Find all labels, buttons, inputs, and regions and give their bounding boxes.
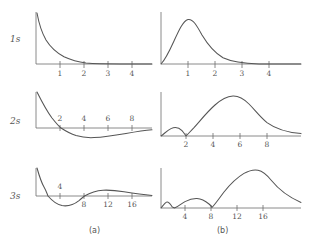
axes	[161, 168, 301, 208]
tick-label: 6	[238, 140, 243, 149]
chart-3s-wavefunction: 4 8 12 16	[30, 166, 154, 226]
tick-label: 4	[267, 69, 272, 78]
tick-label: 3	[106, 69, 111, 78]
chart-1s-wavefunction: 1 2 3 4	[30, 8, 154, 78]
tick-label: 1	[58, 69, 63, 78]
row-label-1s: 1s	[10, 34, 20, 44]
tick-label: 3	[240, 69, 245, 78]
caption-b: (b)	[217, 226, 228, 235]
tick-label: 6	[106, 114, 111, 123]
row-label-3s: 3s	[10, 191, 20, 201]
curve-2s-psi	[37, 92, 152, 138]
tick-label: 4	[130, 69, 135, 78]
chart-2s-radial-distribution: 2 4 6 8	[155, 90, 305, 152]
tick-label: 8	[130, 114, 135, 123]
tick-label: 2	[58, 114, 63, 123]
orbital-radial-functions-figure: 1s 2s 3s (a) (b) 1 2 3 4	[0, 0, 309, 246]
tick-label: 8	[209, 212, 214, 221]
tick-label: 4	[183, 212, 188, 221]
curve-1s-psi	[37, 13, 152, 64]
axes	[161, 12, 301, 64]
x-tick-labels: 2 4 6 8	[184, 140, 270, 149]
tick-label: 4	[58, 182, 63, 191]
tick-label: 2	[82, 69, 87, 78]
x-tick-labels: 1 2 3 4	[186, 69, 272, 78]
tick-label: 8	[82, 200, 87, 209]
tick-label: 2	[184, 140, 189, 149]
curve-1s-rdf	[161, 19, 301, 64]
x-ticks	[188, 61, 269, 68]
tick-label: 2	[213, 69, 218, 78]
x-tick-labels: 2 4 6 8	[58, 114, 135, 123]
x-tick-labels: 4 8 12 16	[183, 212, 268, 221]
tick-label: 12	[232, 212, 242, 221]
tick-label: 4	[82, 114, 87, 123]
axes	[36, 12, 152, 64]
chart-1s-radial-distribution: 1 2 3 4	[155, 8, 305, 78]
axes	[36, 92, 152, 128]
tick-label: 12	[103, 200, 113, 209]
tick-label: 4	[211, 140, 216, 149]
chart-2s-wavefunction: 2 4 6 8	[30, 90, 154, 152]
x-tick-labels: 1 2 3 4	[58, 69, 135, 78]
tick-label: 16	[127, 200, 137, 209]
tick-label: 1	[186, 69, 191, 78]
row-label-2s: 2s	[10, 116, 20, 126]
chart-3s-radial-distribution: 4 8 12 16	[155, 166, 305, 226]
curve-2s-rdf	[161, 96, 301, 136]
tick-label: 8	[265, 140, 270, 149]
caption-a: (a)	[89, 226, 100, 235]
tick-label: 16	[258, 212, 268, 221]
curve-3s-rdf	[161, 170, 301, 208]
